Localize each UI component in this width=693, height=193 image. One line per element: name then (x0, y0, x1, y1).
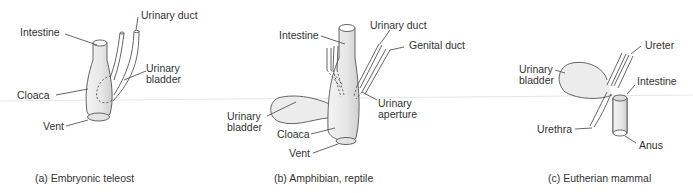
caption-b: (b) Amphibian, reptile (274, 172, 373, 184)
label-ureter-c: Ureter (645, 40, 674, 51)
label-urethra-c: Urethra (537, 124, 572, 135)
caption-a: (a) Embryonic teleost (35, 172, 134, 184)
label-intestine-c: Intestine (637, 76, 677, 87)
caption-c: (c) Eutherian mammal (548, 172, 651, 184)
label-intestine-a: Intestine (20, 27, 60, 38)
label-genital-duct-b: Genital duct (409, 40, 465, 51)
label-urinary-duct-a: Urinary duct (141, 10, 198, 21)
label-line-2: bladder (146, 73, 181, 85)
label-line-2: aperture (378, 108, 417, 120)
label-line-2: bladder (519, 74, 554, 86)
label-urinary-aperture-b: Urinaryaperture (378, 98, 417, 120)
label-vent-b: Vent (289, 148, 310, 159)
label-urinary-bladder-b: Urinarybladder (227, 111, 262, 133)
label-anus-c: Anus (639, 140, 663, 151)
label-cloaca-b: Cloaca (277, 129, 310, 140)
label-intestine-b: Intestine (279, 30, 319, 41)
label-urinary-duct-b: Urinary duct (370, 20, 427, 31)
panel-a-drawing (56, 17, 146, 126)
label-vent-a: Vent (43, 121, 64, 132)
label-line-2: bladder (227, 121, 262, 133)
label-urinary-bladder-a: Urinarybladder (146, 63, 181, 85)
label-cloaca-a: Cloaca (17, 90, 50, 101)
label-urinary-bladder-c: Urinarybladder (519, 64, 554, 86)
diagram-canvas (0, 0, 693, 193)
